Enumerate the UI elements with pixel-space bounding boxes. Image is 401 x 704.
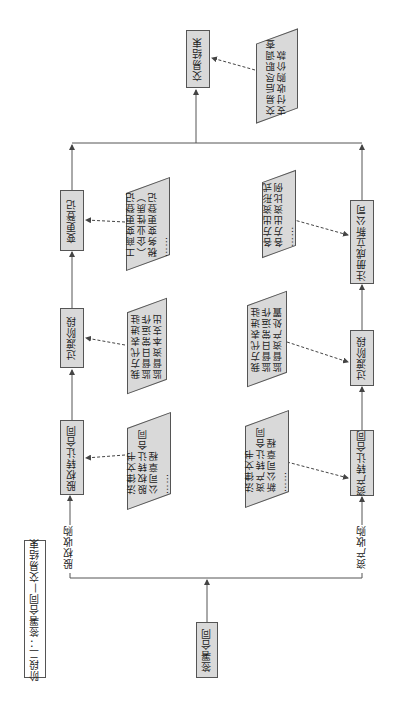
asset-note-legal-docs: 法律文书资产转让合同新公司章程……: [245, 410, 289, 508]
end-note-post-deal: 交易后尽职调查支付收购价款: [256, 28, 298, 123]
equity-step-change-registration: 变更登记: [60, 190, 84, 251]
equity-step-transfer-contract: 股权转让合同: [60, 420, 84, 495]
equity-note-legal-docs: 法律文书股权转让合同公司章程……: [127, 412, 171, 510]
asset-note-transition: 我方代表进驻监督日常运作监督资产处置: [247, 291, 287, 388]
equity-note-transition: 我方代表进驻监督日常运作监督资本支出: [127, 298, 167, 395]
stage-title: 阶段二：签署合同—交易结束: [29, 538, 41, 681]
edge-label-asset: 资产收购: [356, 525, 368, 573]
end-node-deal-complete: 交易结束: [186, 30, 210, 88]
stage-title-box: 阶段二：签署合同—交易结束: [24, 540, 46, 678]
edge-label-equity: 股权收购: [63, 525, 75, 573]
asset-note-capital: 各方出资形式各方出资比例……: [262, 170, 296, 258]
start-node-sign-contract: 签署合同: [196, 622, 218, 678]
equity-step-transition: 过渡阶段: [60, 308, 84, 368]
asset-step-transfer-contract: 资产转让合同: [350, 430, 374, 496]
end-node-label: 交易结束: [192, 37, 204, 81]
equity-note-registration: 工商变更登记（企业性质）税务变更登记……: [126, 177, 170, 271]
asset-step-register-new-company: 注册成立新公司: [350, 200, 374, 284]
asset-step-transition: 过渡阶段: [350, 330, 374, 386]
start-node-label: 签署合同: [201, 628, 213, 672]
